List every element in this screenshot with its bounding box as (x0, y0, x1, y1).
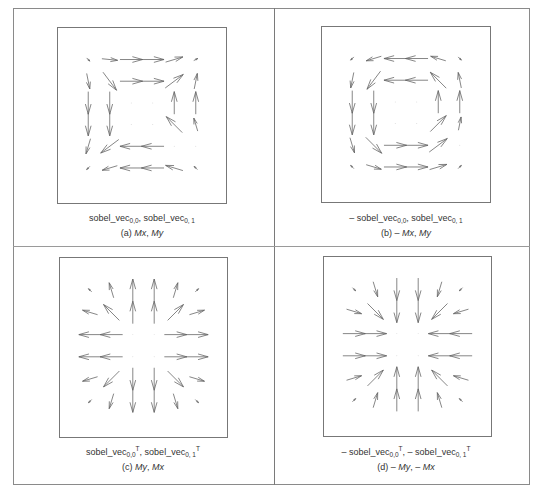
vector-arrow (186, 332, 208, 338)
vector-arrow (87, 58, 90, 61)
vector-arrow (83, 377, 98, 382)
vector-arrow (141, 78, 164, 84)
vector-arrow (394, 389, 400, 411)
vector-arrow (437, 282, 442, 297)
vector-arrow (168, 305, 184, 321)
vector-arrow (371, 112, 377, 135)
vector-arrow (102, 58, 118, 62)
vector-arrow (100, 354, 122, 360)
vector-arrow (459, 288, 462, 291)
vector-arrow (428, 331, 450, 337)
sublabel-tag: (c) (122, 462, 133, 472)
caption-prefix: – (342, 447, 350, 457)
vector-arrow (384, 77, 407, 83)
vector-arrow (194, 73, 198, 88)
vector-arrow (366, 165, 381, 170)
vector-arrow (193, 92, 199, 115)
vector-arrow (130, 279, 136, 301)
vector-arrow (415, 278, 421, 300)
caption-d: – sobel_vec0,0T, – sobel_vec0, 1T (296, 446, 516, 458)
vector-arrow (458, 117, 461, 130)
vector-arrow (100, 332, 122, 338)
vector-arrow (189, 310, 204, 315)
caption-term2: sobel_vec (415, 447, 456, 457)
vector-arrow (120, 143, 143, 149)
caption-term1: sobel_vec (349, 447, 390, 457)
quiver-plot-a (57, 27, 227, 204)
vector-arrow (352, 399, 355, 402)
vector-field-d (324, 257, 491, 436)
sublabel-pre1: – (394, 228, 402, 238)
vector-arrow (450, 331, 472, 337)
vector-arrow (453, 376, 468, 381)
caption-term2-sup: T (466, 445, 470, 452)
vector-arrow (349, 112, 355, 135)
vector-arrow (347, 376, 362, 381)
vector-arrow (194, 118, 198, 131)
caption-term2-sub: 0, 1 (184, 217, 195, 224)
vector-arrow (130, 301, 136, 323)
vector-arrow (384, 164, 407, 170)
horizontal-divider (13, 246, 530, 247)
vector-arrow (173, 283, 178, 298)
vector-arrow (394, 278, 400, 300)
sublabel-tag: (d) (377, 462, 388, 472)
vector-arrow (394, 367, 400, 389)
vector-arrow (85, 92, 91, 115)
sublabel-var1: Mx (402, 228, 414, 238)
vector-arrow (373, 282, 378, 297)
vector-arrow (103, 72, 117, 90)
vector-arrow (151, 279, 157, 301)
vector-arrow (364, 353, 386, 359)
vector-arrow (458, 72, 462, 87)
vector-arrow (405, 56, 428, 62)
vector-arrow (368, 304, 384, 320)
caption-term2: sobel_vec (411, 213, 452, 223)
vector-arrow (151, 368, 157, 390)
vector-arrow (343, 331, 365, 337)
sublabel-tag: (b) (381, 228, 392, 238)
sublabel-b: (b) – Mx, My (296, 228, 516, 238)
vector-arrow (87, 166, 90, 169)
vector-arrow (352, 288, 355, 291)
caption-term1-sub: 0,0 (130, 217, 139, 224)
vector-arrow (86, 139, 91, 154)
vector-field-a (58, 28, 226, 203)
caption-term2-sub: 0, 1 (456, 451, 467, 458)
vector-arrow (168, 371, 184, 387)
caption-b: – sobel_vec0,0, sobel_vec0, 1 (296, 212, 516, 224)
vector-arrow (151, 301, 157, 323)
caption-term2-sub: 0, 1 (452, 217, 463, 224)
sublabel-var1: My (398, 462, 410, 472)
sublabel-var2: Mx (423, 462, 435, 472)
vector-arrow (432, 370, 448, 386)
vector-arrow (453, 309, 468, 314)
vector-arrow (83, 310, 98, 315)
vector-arrow (130, 390, 136, 412)
vector-arrow (166, 165, 183, 170)
vector-arrow (166, 57, 183, 62)
vector-arrow (430, 72, 446, 88)
vector-arrow (109, 394, 114, 409)
vector-arrow (343, 353, 365, 359)
sublabel-pre2: – (415, 462, 423, 472)
vector-arrow (429, 139, 447, 153)
caption-term1: sobel_vec (89, 213, 130, 223)
vector-arrow (164, 332, 186, 338)
vector-arrow (141, 57, 164, 63)
sublabel-var2: Mx (152, 462, 164, 472)
caption-term1: sobel_vec (86, 447, 127, 457)
vector-arrow (165, 74, 183, 88)
quiver-plot-c (59, 257, 228, 438)
caption-term1-sub: 0,0 (390, 451, 399, 458)
quiver-plot-d (323, 256, 492, 437)
vector-arrow (194, 59, 198, 61)
vector-arrow (349, 91, 355, 114)
vector-arrow (194, 166, 197, 169)
vector-arrow (107, 92, 113, 115)
vector-arrow (85, 113, 91, 136)
vector-arrow (186, 354, 208, 360)
vector-arrow (373, 393, 378, 408)
vector-arrow (109, 283, 114, 298)
vector-arrow (189, 377, 204, 382)
